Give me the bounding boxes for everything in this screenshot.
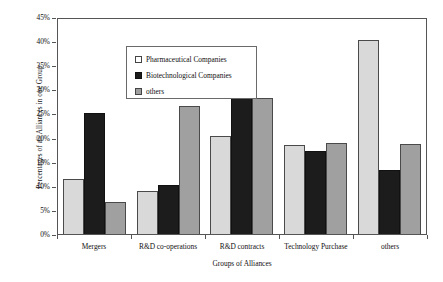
y-axis-tick-label: 35%	[2, 62, 50, 70]
x-axis-category-label: R&D contracts	[205, 242, 279, 251]
y-axis-tick-label: 40%	[2, 38, 50, 46]
x-axis-category-label: others	[353, 242, 427, 251]
legend-swatch-biotechnological-icon	[135, 72, 142, 79]
y-axis-tick-mark	[52, 163, 56, 164]
y-axis-tick-mark	[52, 187, 56, 188]
chart-legend: Pharmaceutical CompaniesBiotechnological…	[126, 46, 257, 99]
x-axis-title: Groups of Alliances	[57, 259, 427, 268]
bar-chart: Percentages of all Alliances in one Grou…	[0, 0, 443, 282]
y-axis-tick-label: 0%	[2, 231, 50, 239]
bar	[252, 98, 273, 234]
x-axis-tick-mark	[427, 235, 428, 239]
x-axis-category-label: Mergers	[57, 242, 131, 251]
bar-group	[58, 19, 132, 234]
bar	[158, 185, 179, 234]
plot-area: Pharmaceutical CompaniesBiotechnological…	[57, 18, 427, 235]
x-axis-tick-marks	[57, 235, 427, 241]
bar-group	[352, 19, 426, 234]
legend-label: others	[146, 87, 164, 96]
y-axis-tick-label: 25%	[2, 110, 50, 118]
y-axis-tick-label: 5%	[2, 207, 50, 215]
y-axis-tick-label: 20%	[2, 135, 50, 143]
bar	[326, 143, 347, 234]
y-axis-tick-mark	[52, 18, 56, 19]
legend-item: Pharmaceutical Companies	[135, 52, 256, 67]
y-axis-tick-mark	[52, 42, 56, 43]
bar	[63, 179, 84, 234]
legend-label: Pharmaceutical Companies	[146, 55, 227, 64]
bar	[137, 191, 158, 234]
y-axis-tick-label: 30%	[2, 86, 50, 94]
legend-item: Biotechnological Companies	[135, 68, 256, 83]
y-axis-tick-label: 45%	[2, 14, 50, 22]
legend-swatch-pharmaceutical-icon	[135, 56, 142, 63]
bar-group	[279, 19, 353, 234]
bar	[84, 113, 105, 234]
x-axis-tick-mark	[57, 235, 58, 239]
y-axis-tick-labels: 0%5%10%15%20%25%30%35%40%45%	[0, 0, 50, 282]
y-axis-tick-mark	[52, 211, 56, 212]
y-axis-tick-mark	[52, 114, 56, 115]
legend-item: others	[135, 84, 256, 99]
x-axis-category-label: R&D co-operations	[131, 242, 205, 251]
y-axis-tick-mark	[52, 90, 56, 91]
x-axis-tick-mark	[131, 235, 132, 239]
y-axis-tick-mark	[52, 66, 56, 67]
bar	[358, 40, 379, 234]
x-axis-category-label: Technology Purchase	[279, 242, 353, 251]
bar	[379, 170, 400, 234]
bar	[105, 202, 126, 234]
y-axis-tick-mark	[52, 235, 56, 236]
x-axis-tick-mark	[205, 235, 206, 239]
x-axis-category-labels: MergersR&D co-operationsR&D contractsTec…	[57, 242, 427, 251]
bar	[284, 145, 305, 234]
y-axis-tick-label: 10%	[2, 183, 50, 191]
legend-label: Biotechnological Companies	[146, 71, 232, 80]
legend-swatch-others-icon	[135, 88, 142, 95]
y-axis-tick-mark	[52, 139, 56, 140]
bar	[305, 151, 326, 234]
bar	[210, 136, 231, 234]
x-axis-tick-mark	[279, 235, 280, 239]
y-axis-tick-label: 15%	[2, 159, 50, 167]
bar	[400, 144, 421, 234]
bar	[179, 106, 200, 234]
x-axis-tick-mark	[353, 235, 354, 239]
